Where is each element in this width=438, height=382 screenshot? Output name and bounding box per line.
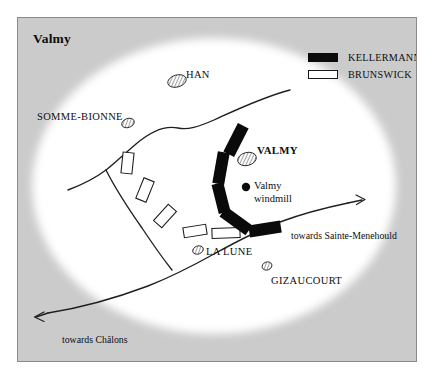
- legend-swatch-kellermann-icon: [308, 53, 338, 62]
- place-label-la-lune: LA LUNE: [206, 247, 253, 258]
- windmill-label-line2: windmill: [254, 194, 292, 205]
- road-label-sainte-menehould: towards Sainte-Menehould: [291, 231, 397, 241]
- valmy-battle-map: Valmy HAN SOMME-BIONNE VALMY LA LUNE GIZ…: [0, 0, 438, 382]
- legend-label-kellermann: KELLERMANN: [348, 52, 417, 63]
- page-title: Valmy: [33, 32, 71, 46]
- place-label-somme-bionne: SOMME-BIONNE: [37, 112, 123, 123]
- road-label-chalons: towards Châlons: [62, 335, 128, 345]
- legend-row-kellermann: KELLERMANN: [308, 49, 417, 66]
- place-label-valmy: VALMY: [257, 145, 298, 156]
- road-arrow-west-head: [35, 312, 45, 322]
- brunswick-unit: [212, 228, 240, 239]
- brunswick-unit: [121, 152, 134, 174]
- valmy-windmill-marker: [242, 183, 250, 191]
- windmill-label-line1: Valmy: [254, 181, 281, 192]
- map-legend: KELLERMANN BRUNSWICK: [308, 49, 417, 83]
- legend-row-brunswick: BRUNSWICK: [308, 66, 417, 83]
- place-label-gizaucourt: GIZAUCOURT: [271, 276, 342, 287]
- legend-swatch-brunswick-icon: [308, 70, 338, 79]
- place-label-han: HAN: [186, 70, 210, 81]
- map-frame: Valmy HAN SOMME-BIONNE VALMY LA LUNE GIZ…: [17, 17, 417, 362]
- legend-label-brunswick: BRUNSWICK: [348, 69, 412, 80]
